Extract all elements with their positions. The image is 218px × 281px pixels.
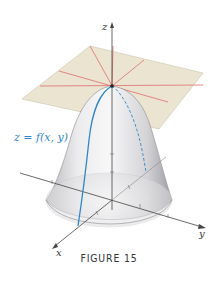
z-axis-label: z <box>102 22 107 32</box>
figure-caption: FIGURE 15 <box>16 252 201 265</box>
y-axis-label: y <box>199 229 205 239</box>
tangency-point <box>110 84 114 88</box>
surface-label: z = f(x, y) <box>14 131 68 144</box>
